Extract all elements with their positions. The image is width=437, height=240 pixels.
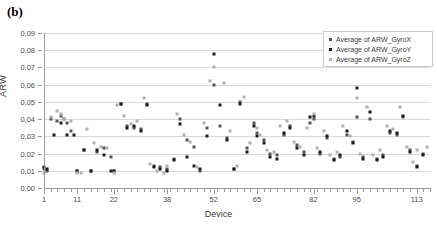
x-tick bbox=[104, 189, 105, 192]
data-point bbox=[265, 149, 268, 152]
legend-marker-icon bbox=[329, 38, 332, 41]
y-tick-label: 0,04 bbox=[20, 115, 35, 124]
x-tick-label: 65 bbox=[253, 195, 261, 204]
data-point bbox=[162, 171, 165, 174]
x-tick bbox=[157, 189, 158, 192]
data-point bbox=[109, 156, 112, 159]
x-axis-title: Device bbox=[0, 209, 437, 219]
data-point bbox=[172, 159, 175, 162]
x-tick bbox=[71, 189, 72, 192]
y-tick bbox=[38, 50, 42, 51]
y-tick bbox=[38, 33, 42, 34]
data-point bbox=[86, 128, 89, 131]
data-point bbox=[189, 140, 192, 143]
y-axis-line bbox=[44, 33, 45, 189]
data-point bbox=[355, 97, 358, 100]
x-tick bbox=[177, 189, 178, 192]
x-tick bbox=[297, 189, 298, 192]
data-point bbox=[199, 168, 202, 171]
data-point bbox=[192, 145, 195, 148]
x-tick bbox=[317, 189, 318, 192]
data-point bbox=[372, 154, 375, 157]
data-point bbox=[259, 133, 262, 136]
x-tick bbox=[403, 189, 404, 192]
gridline bbox=[44, 136, 430, 137]
data-point bbox=[212, 52, 215, 55]
x-tick-label: 95 bbox=[353, 195, 361, 204]
data-point bbox=[375, 159, 378, 162]
y-tick bbox=[38, 154, 42, 155]
x-tick bbox=[210, 189, 211, 192]
x-major-tick bbox=[417, 189, 418, 194]
data-point bbox=[349, 135, 352, 138]
x-tick bbox=[310, 189, 311, 192]
data-point bbox=[402, 114, 405, 117]
x-major-tick bbox=[114, 189, 115, 194]
data-point bbox=[226, 138, 229, 141]
data-point bbox=[345, 130, 348, 133]
data-point bbox=[139, 130, 142, 133]
legend-item[interactable]: Average of ARW_GyroX bbox=[327, 34, 429, 44]
data-point bbox=[339, 154, 342, 157]
data-point bbox=[136, 119, 139, 122]
data-point bbox=[392, 128, 395, 131]
data-point bbox=[405, 145, 408, 148]
x-tick-label: 22 bbox=[110, 195, 118, 204]
x-tick bbox=[270, 189, 271, 192]
data-point bbox=[59, 112, 62, 115]
data-point bbox=[129, 123, 132, 126]
data-point bbox=[202, 121, 205, 124]
y-tick-label: 0,09 bbox=[20, 29, 35, 38]
data-point bbox=[395, 131, 398, 134]
legend-item[interactable]: Average of ARW_GyroY bbox=[327, 44, 429, 54]
x-tick bbox=[343, 189, 344, 192]
y-tick-label: 0,00 bbox=[20, 184, 35, 193]
data-point bbox=[365, 106, 368, 109]
x-tick bbox=[277, 189, 278, 192]
data-point bbox=[182, 133, 185, 136]
x-tick bbox=[284, 189, 285, 192]
data-point bbox=[46, 168, 49, 171]
data-point bbox=[236, 164, 239, 167]
data-point bbox=[142, 97, 145, 100]
gridline bbox=[44, 102, 430, 103]
data-point bbox=[212, 66, 215, 69]
x-major-tick bbox=[44, 189, 45, 194]
x-tick bbox=[131, 189, 132, 192]
x-tick bbox=[304, 189, 305, 192]
data-point bbox=[219, 104, 222, 107]
data-point bbox=[255, 126, 258, 129]
x-tick bbox=[84, 189, 85, 192]
data-point bbox=[332, 159, 335, 162]
x-major-tick bbox=[357, 189, 358, 194]
data-point bbox=[156, 169, 159, 172]
x-axis-tick-labels: 111223852658295113 bbox=[44, 195, 431, 207]
data-point bbox=[355, 116, 358, 119]
data-point bbox=[412, 161, 415, 164]
x-tick bbox=[190, 189, 191, 192]
y-tick-label: 0,01 bbox=[20, 166, 35, 175]
x-tick bbox=[264, 189, 265, 192]
data-point bbox=[239, 102, 242, 105]
data-point bbox=[179, 123, 182, 126]
legend-marker-icon bbox=[329, 58, 332, 61]
x-tick bbox=[217, 189, 218, 192]
data-point bbox=[385, 125, 388, 128]
data-point bbox=[122, 114, 125, 117]
data-point bbox=[206, 135, 209, 138]
data-point bbox=[126, 126, 129, 129]
x-tick bbox=[97, 189, 98, 192]
x-tick bbox=[170, 189, 171, 192]
x-tick bbox=[51, 189, 52, 192]
x-tick bbox=[91, 189, 92, 192]
data-point bbox=[49, 116, 52, 119]
data-point bbox=[369, 118, 372, 121]
data-point bbox=[62, 118, 65, 121]
data-point bbox=[219, 125, 222, 128]
x-tick bbox=[244, 189, 245, 192]
x-tick bbox=[144, 189, 145, 192]
x-tick-label: 38 bbox=[163, 195, 171, 204]
data-point bbox=[369, 111, 372, 114]
legend-item[interactable]: Average of ARW_GyroZ bbox=[327, 54, 429, 64]
x-major-tick bbox=[257, 189, 258, 194]
